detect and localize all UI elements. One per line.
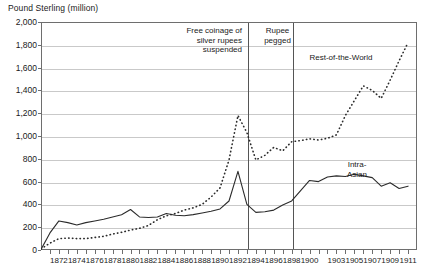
x-tick-label: 1890 [211, 256, 229, 265]
x-tick-mark [131, 250, 132, 254]
y-tick-mark [38, 159, 41, 160]
y-tick-label: 800 [23, 154, 37, 164]
x-tick-mark [148, 250, 149, 254]
y-tick-mark [38, 227, 41, 228]
x-tick-label: 1909 [381, 256, 399, 265]
x-tick-mark [292, 250, 293, 254]
x-tick-label: 1894 [247, 256, 265, 265]
x-tick-mark [175, 250, 176, 254]
y-tick-label: 200 [23, 222, 37, 232]
y-tick-label: 1,200 [16, 108, 37, 118]
x-tick-mark [229, 250, 230, 254]
x-tick-mark [399, 250, 400, 254]
x-tick-label: 1882 [140, 256, 158, 265]
x-tick-label: 1876 [86, 256, 104, 265]
y-tick-mark [38, 136, 41, 137]
x-tick-mark [77, 250, 78, 254]
x-tick-mark [104, 250, 105, 254]
x-tick-mark [274, 250, 275, 254]
x-tick-mark [265, 250, 266, 254]
x-tick-label: 1905 [345, 256, 363, 265]
x-tick-mark [310, 250, 311, 254]
x-tick-mark [408, 250, 409, 254]
x-tick-mark [256, 250, 257, 254]
y-tick-label: 1,800 [16, 40, 37, 50]
x-tick-mark [95, 250, 96, 254]
x-tick-label: 1911 [399, 256, 416, 265]
x-tick-label: 1884 [157, 256, 175, 265]
x-tick-mark [166, 250, 167, 254]
x-tick-mark [238, 250, 239, 254]
y-tick-mark [38, 182, 41, 183]
x-tick-label: 1878 [104, 256, 122, 265]
x-tick-mark [59, 250, 60, 254]
x-tick-mark [327, 250, 328, 254]
y-tick-label: 1,600 [16, 63, 37, 73]
annotation-rupee-pegged: Rupee pegged [248, 26, 307, 45]
x-tick-mark [345, 250, 346, 254]
y-tick-mark [38, 113, 41, 114]
annotation-free-coinage: Free coinage of silver rupees suspended [168, 26, 242, 55]
x-tick-label: 1900 [301, 256, 319, 265]
x-tick-mark [363, 250, 364, 254]
x-tick-mark [139, 250, 140, 254]
series-label-rest-of-the-world: Rest-of-the-World [302, 53, 380, 63]
x-tick-mark [301, 250, 302, 254]
x-tick-label: 1903 [328, 256, 346, 265]
series-line-rest-of-the-world [41, 43, 408, 249]
y-tick-label: 0 [32, 245, 37, 255]
y-tick-label: 400 [23, 199, 37, 209]
y-tick-label: 1,400 [16, 85, 37, 95]
y-tick-mark [38, 250, 41, 251]
x-tick-mark [372, 250, 373, 254]
x-tick-label: 1907 [363, 256, 381, 265]
y-axis-title: Pound Sterling (million) [8, 3, 98, 13]
y-tick-label: 2,000 [16, 17, 37, 27]
x-tick-mark [184, 250, 185, 254]
y-tick-mark [38, 45, 41, 46]
x-tick-mark [211, 250, 212, 254]
x-tick-mark [157, 250, 158, 254]
y-tick-mark [38, 204, 41, 205]
chart-container: Pound Sterling (million) 02004006008001,… [0, 0, 429, 274]
x-tick-label: 1874 [68, 256, 86, 265]
x-tick-mark [193, 250, 194, 254]
x-tick-mark [113, 250, 114, 254]
x-tick-mark [86, 250, 87, 254]
x-tick-label: 1896 [265, 256, 283, 265]
x-tick-mark [381, 250, 382, 254]
x-tick-mark [247, 250, 248, 254]
x-axis-tick-labels: 1872187418761878188018821884188618881890… [0, 256, 429, 270]
x-tick-mark [390, 250, 391, 254]
y-tick-label: 1,000 [16, 131, 37, 141]
y-tick-mark [38, 68, 41, 69]
x-tick-label: 1880 [122, 256, 140, 265]
series-label-intra-asian: Intra- Asian [340, 160, 374, 179]
x-tick-label: 1888 [193, 256, 211, 265]
y-axis-tick-labels: 02004006008001,0001,2001,4001,6001,8002,… [0, 22, 37, 250]
x-tick-mark [354, 250, 355, 254]
x-tick-mark [202, 250, 203, 254]
x-tick-mark [68, 250, 69, 254]
x-tick-label: 1898 [283, 256, 301, 265]
x-tick-label: 1886 [175, 256, 193, 265]
x-tick-mark [220, 250, 221, 254]
x-tick-mark [283, 250, 284, 254]
y-tick-mark [38, 22, 41, 23]
y-tick-label: 600 [23, 177, 37, 187]
x-tick-mark [336, 250, 337, 254]
y-tick-mark [38, 90, 41, 91]
x-tick-mark [319, 250, 320, 254]
x-tick-mark [50, 250, 51, 254]
x-tick-label: 1872 [50, 256, 68, 265]
x-tick-label: 1892 [229, 256, 247, 265]
x-tick-mark [122, 250, 123, 254]
